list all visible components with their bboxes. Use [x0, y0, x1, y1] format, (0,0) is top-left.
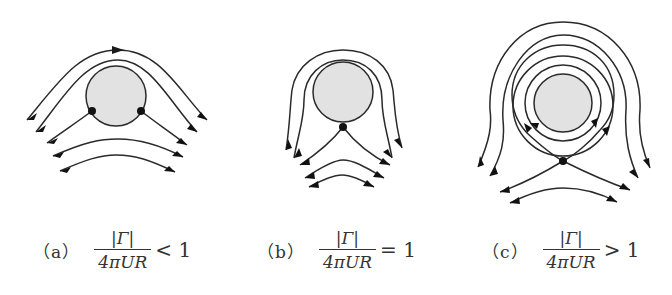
- panel-b-streamlines: [286, 50, 402, 188]
- stagnation-point-c: [559, 157, 567, 165]
- caption-c-label: （c）: [482, 238, 529, 263]
- cylinder-b: [313, 62, 373, 122]
- caption-c: （c） |Γ| 4πUR > 1: [482, 228, 640, 272]
- caption-a-label: （a）: [33, 238, 80, 263]
- caption-b-relation: = 1: [380, 238, 416, 262]
- caption-a-numerator: |Γ|: [105, 228, 140, 249]
- caption-c-denominator: 4πUR: [543, 249, 600, 272]
- caption-b-denominator: 4πUR: [319, 249, 376, 272]
- caption-b-label: （b）: [257, 238, 305, 263]
- panel-a-streamlines: [27, 50, 207, 173]
- caption-a-relation: < 1: [155, 238, 191, 262]
- caption-c-numerator: |Γ|: [553, 228, 588, 249]
- cylinder-a: [86, 66, 146, 126]
- streamline-diagram: [0, 0, 672, 220]
- caption-b-fraction: |Γ| 4πUR: [319, 228, 376, 272]
- stagnation-point-a-left: [88, 107, 96, 115]
- caption-c-relation: > 1: [604, 238, 640, 262]
- caption-b-numerator: |Γ|: [330, 228, 365, 249]
- stagnation-point-a-right: [137, 107, 145, 115]
- caption-a: （a） |Γ| 4πUR < 1: [33, 228, 191, 272]
- cylinder-c: [534, 74, 592, 132]
- stagnation-point-b: [339, 123, 347, 131]
- caption-b: （b） |Γ| 4πUR = 1: [257, 228, 416, 272]
- caption-c-fraction: |Γ| 4πUR: [543, 228, 600, 272]
- panel-c-streamlines: [478, 22, 650, 204]
- caption-a-denominator: 4πUR: [94, 249, 151, 272]
- caption-a-fraction: |Γ| 4πUR: [94, 228, 151, 272]
